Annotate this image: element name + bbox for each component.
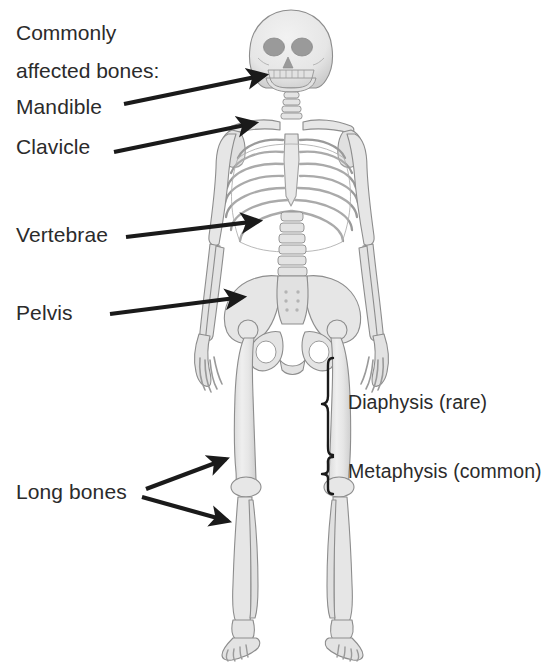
femoral-head-right xyxy=(327,320,347,340)
arm-left xyxy=(195,134,236,392)
skeleton-body xyxy=(195,10,389,661)
eye-socket-left xyxy=(264,38,285,56)
obturator-foramen-left xyxy=(256,341,276,363)
knee-condyle-left xyxy=(231,477,261,497)
sacrum xyxy=(277,276,308,324)
femoral-head-left xyxy=(238,320,258,340)
maxilla xyxy=(268,70,314,78)
bone-diagram-figure: Commonly affected bones: Mandible Clavic… xyxy=(0,0,549,665)
cervical-spine xyxy=(281,92,302,119)
label-diaphysis: Diaphysis (rare) xyxy=(348,392,487,412)
label-vertebrae: Vertebrae xyxy=(16,224,108,246)
leg-left xyxy=(222,338,261,661)
label-long-bones: Long bones xyxy=(16,481,127,503)
hand-right xyxy=(372,334,388,386)
eye-socket-right xyxy=(292,38,313,56)
skull xyxy=(249,10,332,92)
leg-right xyxy=(324,338,363,661)
ankle-left xyxy=(232,620,254,640)
label-pelvis: Pelvis xyxy=(16,302,73,324)
ankle-right xyxy=(331,620,353,640)
label-metaphysis: Metaphysis (common) xyxy=(348,461,542,481)
hand-left xyxy=(195,334,211,386)
title-line-1: Commonly xyxy=(16,14,159,52)
arm-right xyxy=(347,134,388,392)
title-block: Commonly affected bones: xyxy=(16,14,159,90)
label-mandible: Mandible xyxy=(16,96,102,118)
obturator-foramen-right xyxy=(309,341,329,363)
label-clavicle: Clavicle xyxy=(16,136,90,158)
femur-left xyxy=(234,338,256,493)
fibula-right xyxy=(327,500,336,618)
fibula-left xyxy=(249,500,258,618)
title-line-2: affected bones: xyxy=(16,52,159,90)
